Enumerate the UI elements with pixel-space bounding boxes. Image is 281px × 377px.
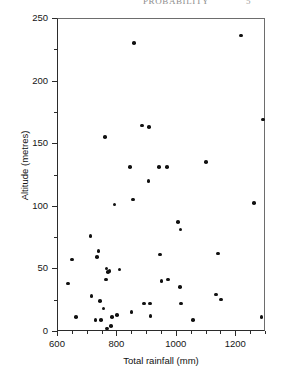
data-point — [166, 278, 170, 282]
data-point — [214, 293, 218, 297]
data-point — [70, 258, 74, 262]
x-tick — [57, 331, 58, 336]
data-point — [160, 279, 164, 283]
x-tick — [87, 331, 88, 334]
x-tick-label: 600 — [37, 338, 77, 349]
data-point — [115, 313, 119, 317]
data-point — [102, 307, 106, 311]
data-point — [261, 118, 265, 122]
y-tick — [52, 331, 57, 332]
data-point — [118, 268, 122, 272]
data-point — [90, 294, 94, 298]
x-tick — [265, 331, 266, 334]
data-point — [132, 41, 136, 45]
data-point — [104, 278, 108, 282]
x-tick — [102, 331, 103, 334]
data-point — [252, 201, 256, 205]
x-tick-label: 1200 — [215, 338, 255, 349]
x-tick — [206, 331, 207, 334]
x-tick — [191, 331, 192, 334]
data-point — [105, 327, 109, 331]
x-tick-label: 800 — [96, 338, 136, 349]
data-point — [176, 220, 180, 224]
data-point — [179, 302, 183, 306]
x-tick — [131, 331, 132, 334]
x-tick — [235, 331, 236, 336]
data-point — [239, 34, 243, 38]
data-point — [109, 324, 113, 328]
data-point — [191, 318, 195, 322]
data-point — [165, 165, 169, 169]
data-point — [89, 234, 93, 238]
data-point — [128, 165, 132, 169]
data-point — [98, 299, 102, 303]
data-point — [142, 302, 146, 306]
data-point — [140, 124, 144, 128]
data-point — [147, 125, 151, 129]
data-point — [147, 179, 151, 183]
data-point — [148, 302, 152, 306]
data-point — [158, 253, 162, 257]
y-tick-label: 200 — [18, 75, 48, 86]
x-tick — [250, 331, 251, 334]
x-tick-label: 1000 — [156, 338, 196, 349]
x-tick — [161, 331, 162, 334]
data-point — [74, 315, 78, 319]
x-tick — [220, 331, 221, 334]
data-point — [130, 310, 134, 314]
data-point — [131, 198, 135, 202]
x-axis-title: Total rainfall (mm) — [57, 355, 265, 366]
data-point — [179, 228, 183, 232]
data-point — [110, 315, 114, 319]
scatter-plot-figure: 60080010001200 050100150200250 Total rai… — [0, 0, 281, 377]
data-point — [204, 160, 208, 164]
data-point — [99, 318, 103, 322]
x-tick — [116, 331, 117, 336]
x-tick — [176, 331, 177, 336]
data-point — [97, 249, 101, 253]
y-tick-label: 50 — [18, 262, 48, 273]
data-point — [103, 135, 107, 139]
data-point — [113, 203, 117, 207]
data-point — [108, 269, 112, 273]
data-points-layer — [57, 18, 265, 331]
data-point — [66, 282, 70, 286]
data-point — [94, 318, 98, 322]
data-point — [149, 314, 153, 318]
data-point — [216, 252, 220, 256]
data-point — [219, 298, 223, 302]
data-point — [260, 315, 264, 319]
x-tick — [146, 331, 147, 334]
y-tick-label: 0 — [18, 325, 48, 336]
x-tick — [72, 331, 73, 334]
data-point — [95, 255, 99, 259]
y-tick-label: 250 — [18, 12, 48, 23]
data-point — [178, 285, 182, 289]
y-axis-title: Altitude (metres) — [19, 96, 30, 236]
data-point — [157, 165, 161, 169]
